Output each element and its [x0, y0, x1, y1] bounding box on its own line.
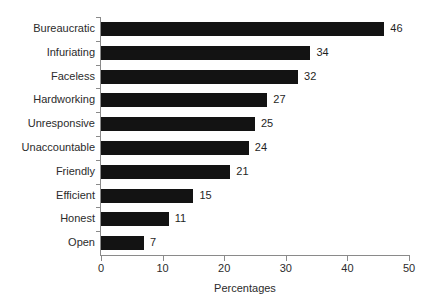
y-axis-tick [96, 65, 101, 66]
category-label-infuriating: Infuriating [47, 46, 95, 59]
category-label-faceless: Faceless [51, 70, 95, 83]
category-label-bureaucratic: Bureaucratic [33, 22, 95, 35]
x-axis-tick [347, 256, 348, 261]
x-axis-tick-label-0: 0 [98, 262, 104, 275]
bar-hardworking [101, 93, 267, 107]
category-label-honest: Honest [60, 212, 95, 225]
y-axis-tick [96, 184, 101, 185]
category-label-open: Open [68, 236, 95, 249]
bar-bureaucratic [101, 22, 384, 36]
bar-unaccountable [101, 141, 249, 155]
bar-row: Efficient15 [101, 189, 409, 203]
y-axis-tick [96, 17, 101, 18]
category-label-efficient: Efficient [56, 189, 95, 202]
bar-row: Open7 [101, 236, 409, 250]
bar-unresponsive [101, 117, 255, 131]
bar-row: Faceless32 [101, 70, 409, 84]
bar-honest [101, 212, 169, 226]
bar-value-honest: 11 [175, 212, 186, 225]
bar-value-hardworking: 27 [273, 93, 285, 106]
bar-efficient [101, 189, 193, 203]
bar-value-efficient: 15 [199, 189, 211, 202]
y-axis-tick [96, 231, 101, 232]
y-axis-tick [96, 207, 101, 208]
bar-value-unresponsive: 25 [261, 117, 273, 130]
bar-open [101, 236, 144, 250]
y-axis-tick [96, 112, 101, 113]
bar-row: Infuriating34 [101, 46, 409, 60]
x-axis-line [100, 255, 410, 256]
x-axis-tick [101, 256, 102, 261]
category-label-unaccountable: Unaccountable [22, 141, 95, 154]
y-axis-tick [96, 160, 101, 161]
x-axis-title-text: Percentages [214, 281, 276, 295]
bar-row: Hardworking27 [101, 93, 409, 107]
x-axis-tick [409, 256, 410, 261]
bar-chart: Bureaucratic46Infuriating34Faceless32Har… [0, 0, 442, 304]
plot-area: Bureaucratic46Infuriating34Faceless32Har… [101, 17, 409, 255]
category-label-unresponsive: Unresponsive [28, 117, 95, 130]
bar-friendly [101, 165, 230, 179]
x-axis-tick [286, 256, 287, 261]
category-label-friendly: Friendly [56, 165, 95, 178]
bar-faceless [101, 70, 298, 84]
x-axis-tick-label-20: 20 [218, 262, 230, 275]
x-axis-tick-label-10: 10 [156, 262, 168, 275]
x-axis-tick [224, 256, 225, 261]
x-axis-tick-label-30: 30 [280, 262, 292, 275]
x-axis-tick [163, 256, 164, 261]
x-axis-tick-label-50: 50 [403, 262, 415, 275]
bar-value-open: 7 [150, 236, 156, 249]
bar-infuriating [101, 46, 310, 60]
y-axis-tick [96, 136, 101, 137]
bar-row: Friendly21 [101, 165, 409, 179]
bar-value-unaccountable: 24 [255, 141, 267, 154]
bar-value-friendly: 21 [236, 165, 248, 178]
bar-row: Unresponsive25 [101, 117, 409, 131]
x-axis-tick-label-40: 40 [341, 262, 353, 275]
y-axis-tick [96, 41, 101, 42]
x-axis-title: Percentages [0, 281, 442, 295]
bar-row: Bureaucratic46 [101, 22, 409, 36]
bar-value-faceless: 32 [304, 70, 316, 83]
bar-row: Honest11 [101, 212, 409, 226]
bar-value-bureaucratic: 46 [390, 22, 402, 35]
category-label-hardworking: Hardworking [33, 93, 95, 106]
bar-value-infuriating: 34 [316, 46, 328, 59]
y-axis-tick [96, 88, 101, 89]
bar-row: Unaccountable24 [101, 141, 409, 155]
